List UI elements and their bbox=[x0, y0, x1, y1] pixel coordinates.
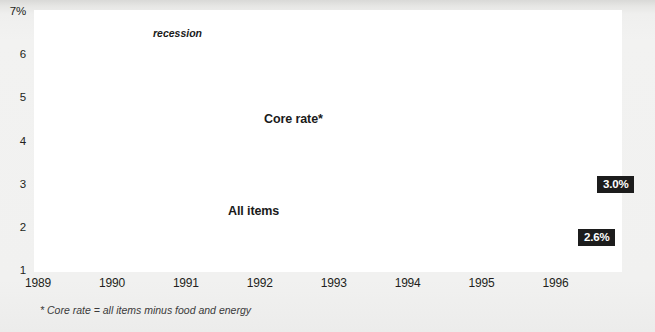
y-axis-tick-label: 7% bbox=[2, 5, 26, 17]
y-axis-tick-label: 2 bbox=[2, 221, 26, 233]
y-axis-tick-label: 4 bbox=[2, 135, 26, 147]
x-axis-tick-label: 1993 bbox=[307, 276, 361, 290]
series-label-core-rate: Core rate* bbox=[264, 112, 323, 126]
y-axis-tick-label: 3 bbox=[2, 178, 26, 190]
y-axis-tick-label: 6 bbox=[2, 48, 26, 60]
y-axis-tick-label: 5 bbox=[2, 91, 26, 103]
x-axis-tick-label: 1996 bbox=[528, 276, 582, 290]
x-axis-tick-label: 1992 bbox=[233, 276, 287, 290]
series-label-all-items: All items bbox=[228, 204, 279, 218]
y-axis-tick-label: 1 bbox=[2, 264, 26, 276]
x-axis-tick-label: 1991 bbox=[159, 276, 213, 290]
plot-area-background bbox=[34, 10, 622, 272]
x-axis-tick-label: 1990 bbox=[85, 276, 139, 290]
chart-screenshot: 1234567% 1989199019911992199319941995199… bbox=[0, 0, 655, 332]
callout-all-items-value: 3.0% bbox=[597, 176, 634, 193]
recession-band-label: recession bbox=[153, 27, 202, 39]
callout-core-rate-value: 2.6% bbox=[578, 229, 615, 246]
x-axis-tick-label: 1994 bbox=[381, 276, 435, 290]
chart-footnote: * Core rate = all items minus food and e… bbox=[40, 304, 251, 316]
x-axis-tick-label: 1995 bbox=[455, 276, 509, 290]
x-axis-tick-label: 1989 bbox=[11, 276, 65, 290]
